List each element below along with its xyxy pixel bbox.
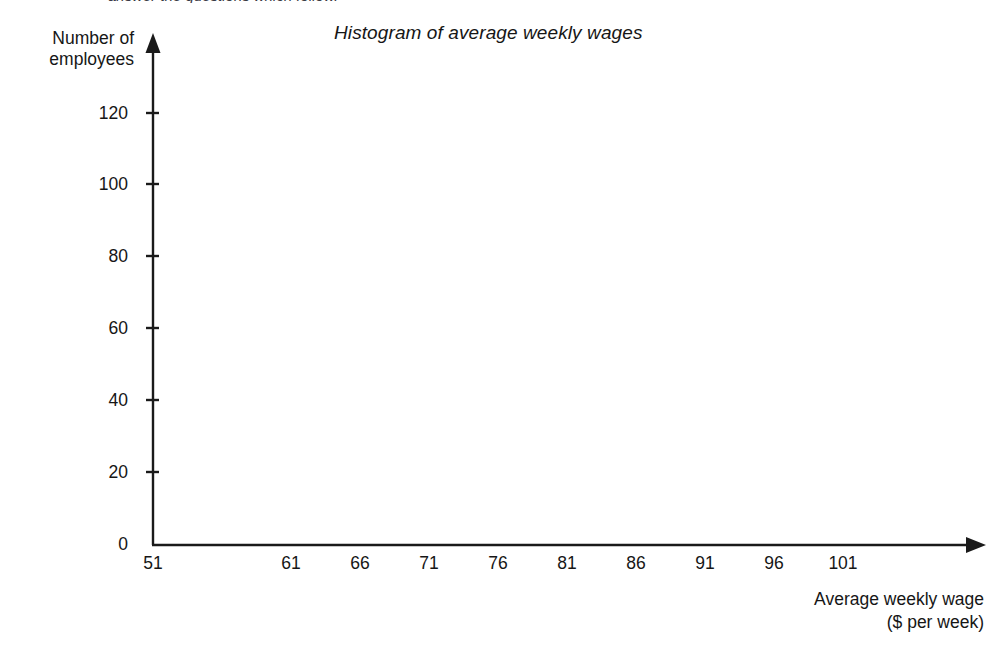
y-tick-label-60: 60	[68, 318, 128, 339]
y-axis-label-line-2: employees	[0, 49, 134, 70]
x-tick-label-81: 81	[541, 553, 593, 574]
x-tick-label-91: 91	[679, 553, 731, 574]
x-axis-title-line-2: ($ per week)	[814, 611, 984, 634]
plot-area	[153, 40, 985, 545]
y-tick-label-100: 100	[68, 174, 128, 195]
y-tick-label-0: 0	[68, 534, 128, 555]
y-tick-label-20: 20	[68, 462, 128, 483]
x-tick-label-101: 101	[817, 553, 869, 574]
histogram-figure: answer the questions which follow. Histo…	[0, 0, 996, 660]
y-tick-label-120: 120	[68, 103, 128, 124]
y-tick-label-80: 80	[68, 246, 128, 267]
y-tick-label-40: 40	[68, 390, 128, 411]
x-tick-label-61: 61	[265, 553, 317, 574]
x-tick-label-86: 86	[610, 553, 662, 574]
x-axis-title-line-1: Average weekly wage	[814, 588, 984, 611]
x-tick-label-51: 51	[127, 553, 179, 574]
x-axis-title: Average weekly wage ($ per week)	[814, 588, 984, 634]
x-tick-label-66: 66	[334, 553, 386, 574]
x-tick-label-76: 76	[472, 553, 524, 574]
cropped-top-text: answer the questions which follow.	[108, 0, 528, 3]
y-axis-label: Number of employees	[0, 28, 134, 70]
x-tick-label-96: 96	[748, 553, 800, 574]
x-tick-label-71: 71	[403, 553, 455, 574]
y-axis-label-line-1: Number of	[0, 28, 134, 49]
